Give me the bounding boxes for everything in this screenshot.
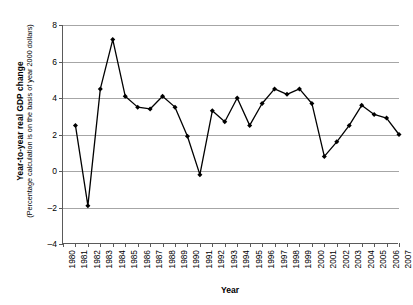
x-tick-label: 2005: [378, 250, 388, 268]
x-tick-label: 2007: [403, 250, 413, 268]
x-tick-label: 1983: [104, 250, 114, 268]
x-tick-label: 1980: [67, 250, 77, 268]
y-tick-label: 6: [37, 57, 57, 67]
x-tick-label: 1995: [254, 250, 264, 268]
x-tick-label: 1998: [291, 250, 301, 268]
x-tick-label: 2004: [366, 250, 376, 268]
x-tick-label: 2002: [341, 250, 351, 268]
x-tick-mark: [399, 243, 400, 247]
data-point-marker: [247, 123, 252, 128]
y-tick-label: –2: [37, 203, 57, 213]
data-point-marker: [73, 123, 78, 128]
x-tick-label: 2006: [391, 250, 401, 268]
x-tick-label: 1984: [117, 250, 127, 268]
plot-area: 86420–2–4 198019811982198319841985198619…: [62, 25, 398, 244]
x-tick-label: 1996: [266, 250, 276, 268]
x-tick-label: 1991: [204, 250, 214, 268]
x-tick-label: 1997: [279, 250, 289, 268]
x-tick-label: 1987: [154, 250, 164, 268]
data-point-marker: [197, 172, 202, 177]
data-point-marker: [85, 203, 90, 208]
y-tick-label: –4: [37, 239, 57, 249]
y-tick-label: 2: [37, 130, 57, 140]
y-axis-title: Year-to-year real GDP change (Percentage…: [15, 11, 49, 231]
data-point-marker: [235, 96, 240, 101]
data-point-marker: [185, 134, 190, 139]
data-point-marker: [285, 92, 290, 97]
x-tick-label: 1982: [92, 250, 102, 268]
x-tick-label: 2003: [353, 250, 363, 268]
data-series-svg: [63, 25, 399, 244]
x-axis-title: Year: [62, 285, 398, 295]
x-tick-label: 1989: [179, 250, 189, 268]
x-tick-label: 1986: [142, 250, 152, 268]
x-tick-label: 1981: [79, 250, 89, 268]
x-tick-label: 1988: [167, 250, 177, 268]
y-tick-label: 8: [37, 20, 57, 30]
data-point-marker: [98, 86, 103, 91]
x-tick-label: 1994: [241, 250, 251, 268]
x-tick-label: 2000: [316, 250, 326, 268]
y-axis-title-subtitle: (Percentage calculation is on the basis …: [25, 11, 34, 231]
y-tick-label: 4: [37, 93, 57, 103]
series-line: [75, 40, 399, 206]
x-tick-label: 2001: [328, 250, 338, 268]
gdp-change-line-chart: Year-to-year real GDP change (Percentage…: [0, 0, 413, 305]
y-axis-title-main: Year-to-year real GDP change: [15, 11, 25, 231]
x-tick-label: 1999: [303, 250, 313, 268]
x-tick-label: 1985: [129, 250, 139, 268]
x-tick-label: 1990: [191, 250, 201, 268]
x-tick-label: 1993: [229, 250, 239, 268]
x-tick-label: 1992: [216, 250, 226, 268]
data-point-marker: [110, 37, 115, 42]
y-tick-label: 0: [37, 166, 57, 176]
